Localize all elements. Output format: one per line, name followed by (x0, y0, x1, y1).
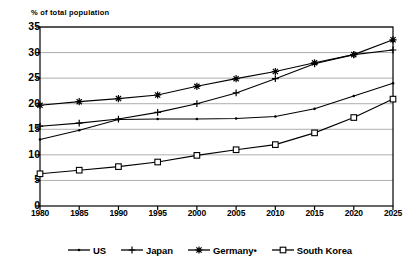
legend-point-marker (280, 247, 286, 253)
series-line (40, 40, 393, 105)
data-point-marker (76, 167, 82, 173)
data-point-marker (196, 118, 199, 121)
data-point-marker (155, 159, 161, 165)
data-point-marker (36, 102, 43, 109)
x-tick-label: 1980 (20, 208, 60, 218)
chart-legend: USJapanGermany•South Korea (0, 244, 420, 256)
legend-marker-star-icon (188, 244, 210, 256)
x-tick-label: 2015 (295, 208, 335, 218)
data-point-marker (350, 51, 357, 58)
x-tick-label: 2020 (334, 208, 374, 218)
series-line (40, 83, 393, 139)
data-point-marker (390, 96, 396, 102)
legend-item[interactable]: Japan (121, 244, 173, 256)
x-tick-label: 2000 (177, 208, 217, 218)
legend-marker-dot-icon (68, 244, 90, 256)
data-point-marker (154, 109, 161, 116)
legend-label: Japan (146, 245, 173, 256)
data-point-marker (389, 36, 396, 43)
data-point-marker (154, 91, 161, 98)
data-point-marker (115, 116, 122, 123)
data-point-marker (193, 100, 200, 107)
legend-marker-plus-icon (121, 244, 143, 256)
data-point-marker (233, 147, 239, 153)
data-point-marker (78, 129, 81, 132)
data-point-marker (272, 68, 279, 75)
data-point-marker (273, 142, 279, 148)
gridlines (40, 27, 393, 180)
data-point-marker (194, 153, 200, 159)
legend-point-marker (78, 249, 81, 252)
legend-item[interactable]: South Korea (272, 244, 352, 256)
legend-item[interactable]: US (68, 244, 106, 256)
data-point-marker (39, 138, 42, 141)
data-point-marker (76, 120, 83, 127)
x-tick-label: 1990 (98, 208, 138, 218)
data-point-marker (351, 115, 357, 121)
series-japan (37, 47, 397, 130)
x-tick-label: 2010 (255, 208, 295, 218)
x-axis-tick-labels: 1980198519901995200020052010201520202025 (0, 208, 420, 226)
data-point-marker (233, 90, 240, 97)
data-point-marker (193, 83, 200, 90)
data-point-marker (233, 75, 240, 82)
plot-area (0, 0, 420, 277)
x-tick-label: 2005 (216, 208, 256, 218)
legend-item[interactable]: Germany• (188, 244, 257, 256)
x-tick-label: 1995 (138, 208, 178, 218)
legend-label: South Korea (297, 245, 352, 256)
legend-marker-square-icon (272, 244, 294, 256)
data-point-marker (116, 164, 122, 170)
x-tick-label: 2025 (373, 208, 413, 218)
data-point-marker (274, 115, 277, 118)
data-point-marker (37, 123, 44, 130)
chart-container: % of total population 05101520253035 198… (0, 0, 420, 277)
data-point-marker (37, 171, 43, 177)
data-point-marker (115, 95, 122, 102)
x-tick-label: 1985 (59, 208, 99, 218)
legend-label: US (93, 245, 106, 256)
series-southkorea (37, 96, 396, 176)
data-point-marker (392, 82, 395, 85)
legend-point-marker (195, 246, 202, 253)
legend-point-marker (129, 247, 136, 254)
series-us (39, 82, 395, 141)
data-point-marker (156, 118, 159, 121)
data-point-marker (76, 98, 83, 105)
data-point-marker (311, 59, 318, 66)
data-point-marker (235, 117, 238, 120)
data-point-marker (312, 130, 318, 136)
data-point-marker (272, 75, 279, 82)
data-point-marker (352, 95, 355, 98)
legend-label: Germany• (213, 245, 257, 256)
series-line (40, 99, 393, 174)
plot-frame (40, 27, 393, 206)
data-point-marker (313, 108, 316, 111)
series-line (40, 50, 393, 126)
